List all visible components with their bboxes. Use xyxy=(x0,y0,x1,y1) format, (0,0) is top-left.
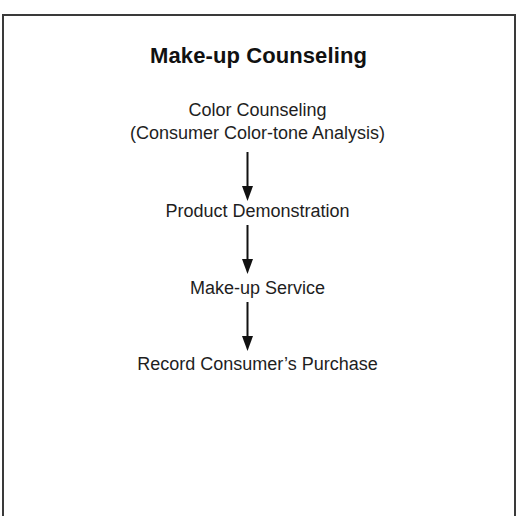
flow-step-make-up-service: Make-up Service xyxy=(0,277,515,300)
step-label: Record Consumer’s Purchase xyxy=(0,353,515,376)
arrow-down-icon xyxy=(242,152,253,202)
arrow-down-icon xyxy=(242,302,253,352)
step-sublabel: (Consumer Color-tone Analysis) xyxy=(0,122,515,145)
flow-step-color-counseling: Color Counseling (Consumer Color-tone An… xyxy=(0,99,515,145)
step-label: Product Demonstration xyxy=(0,200,515,223)
flow-step-record-purchase: Record Consumer’s Purchase xyxy=(0,353,515,376)
step-label: Make-up Service xyxy=(0,277,515,300)
diagram-title: Make-up Counseling xyxy=(0,42,517,70)
arrow-down-icon xyxy=(242,225,253,275)
diagram-frame xyxy=(2,14,516,516)
step-label: Color Counseling xyxy=(0,99,515,122)
flow-step-product-demonstration: Product Demonstration xyxy=(0,200,515,223)
